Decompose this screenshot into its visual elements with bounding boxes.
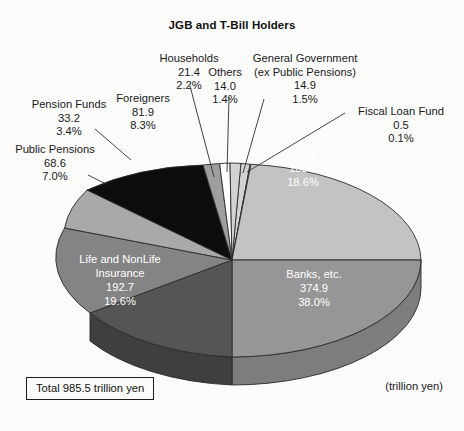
slice-label-insurance: Life and NonLife Insurance 192.7 19.6% [47,253,193,309]
leader-line-others [227,97,229,172]
slice-label-insurance-value: 192.7 [47,281,193,295]
callout-general-government-value: 14.9 [243,79,367,93]
slice-label-boj-value: 183.4 [265,162,341,176]
callout-foreigners-name: Foreigners [106,92,180,106]
total-box: Total 985.5 trillion yen [26,377,154,400]
callout-pension-funds-name: Pension Funds [22,98,116,112]
callout-fiscal-loan-fund-percent: 0.1% [346,132,456,146]
callout-fiscal-loan-fund-name: Fiscal Loan Fund [346,105,456,119]
slice-label-insurance-percent: 19.6% [47,295,193,309]
slice-label-insurance-name-line1: Life and NonLife [47,253,193,267]
callout-pension-funds-value: 33.2 [22,112,116,126]
slice-label-banks: Banks, etc. 374.9 38.0% [269,268,359,310]
callout-public-pensions: Public Pensions 68.6 7.0% [5,143,105,184]
slice-label-insurance-name-line2: Insurance [47,267,193,281]
callout-pension-funds: Pension Funds 33.2 3.4% [22,98,116,139]
callout-general-government: General Government (ex Public Pensions) … [243,52,367,107]
callout-pension-funds-percent: 3.4% [22,125,116,139]
slice-label-boj-name: BOJ [265,148,341,162]
unit-note: (trillion yen) [385,380,443,392]
callout-fiscal-loan-fund: Fiscal Loan Fund 0.5 0.1% [346,105,456,146]
slice-label-banks-name: Banks, etc. [269,268,359,282]
pie-chart-figure: JGB and T-Bill Holders [0,0,464,431]
callout-fiscal-loan-fund-value: 0.5 [346,119,456,133]
callout-households-name: Households [141,52,237,66]
slice-label-banks-percent: 38.0% [269,296,359,310]
callout-public-pensions-name: Public Pensions [5,143,105,157]
slice-label-boj-percent: 18.6% [265,176,341,190]
callout-general-government-name-line1: General Government [243,52,367,66]
callout-foreigners-percent: 8.3% [106,119,180,133]
callout-public-pensions-value: 68.6 [5,157,105,171]
slice-label-boj: BOJ 183.4 18.6% [265,148,341,190]
slice-label-banks-value: 374.9 [269,282,359,296]
callout-foreigners-value: 81.9 [106,106,180,120]
callout-foreigners: Foreigners 81.9 8.3% [106,92,180,133]
callout-general-government-name-line2: (ex Public Pensions) [243,66,367,80]
leader-line-general-government [243,99,264,173]
callout-public-pensions-percent: 7.0% [5,170,105,184]
